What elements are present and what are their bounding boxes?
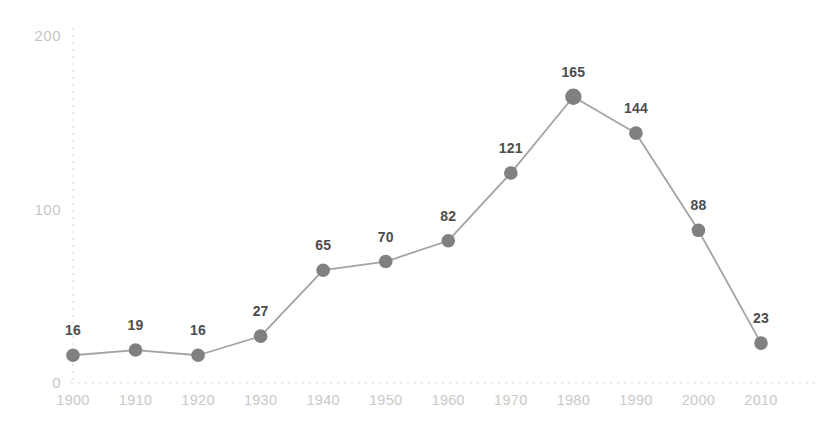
series-polyline <box>73 97 761 356</box>
y-axis-tick-label: 100 <box>0 201 61 218</box>
data-point-marker <box>504 166 518 180</box>
data-point-value-label: 23 <box>721 310 801 326</box>
data-point-value-label: 27 <box>221 303 301 319</box>
y-axis-tick-label: 0 <box>0 374 61 391</box>
data-point-marker <box>629 126 643 140</box>
series-line <box>73 97 761 356</box>
data-point-marker <box>254 329 268 343</box>
x-axis-tick-label: 2010 <box>721 392 801 408</box>
data-point-value-label: 70 <box>346 229 426 245</box>
data-point-marker <box>754 336 768 350</box>
data-point-value-label: 144 <box>596 100 676 116</box>
data-point-marker <box>565 89 581 105</box>
data-point-value-label: 121 <box>471 140 551 156</box>
data-point-marker <box>379 255 393 269</box>
data-point-marker <box>191 348 205 362</box>
data-point-marker <box>441 234 455 248</box>
data-point-value-label: 165 <box>533 64 613 80</box>
data-point-marker <box>66 348 80 362</box>
y-axis-tick-label: 200 <box>0 27 61 44</box>
data-point-value-label: 88 <box>658 197 738 213</box>
data-point-value-label: 16 <box>158 322 238 338</box>
data-point-marker <box>692 224 706 238</box>
data-point-marker <box>129 343 143 357</box>
data-point-value-label: 82 <box>408 208 488 224</box>
line-chart: 0100200 19001910192019301940195019601970… <box>0 0 825 438</box>
data-point-marker <box>316 263 330 277</box>
